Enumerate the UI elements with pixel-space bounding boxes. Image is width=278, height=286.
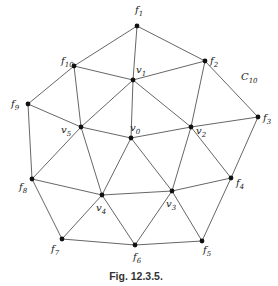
edge-v0-v3 [131,138,172,191]
planar-graph-diagram: f1f2f3f4f5f6f7f8f9f10v0v1v2v3v4v5 C10 Fi… [0,0,278,286]
vertex-f2 [203,59,208,64]
vertex-labels: f1f2f3f4f5f6f7f8f9f10v0v1v2v3v4v5 [10,4,272,265]
edge-v5-f8 [32,127,81,179]
edge-v4-v3 [102,191,172,195]
edge-v1-v5 [81,80,133,127]
edge-f10-v1 [74,66,133,80]
edge-f9-v5 [28,104,81,127]
edge-f10-f9 [28,66,74,104]
label-f3: f3 [262,112,272,126]
label-f5: f5 [202,244,212,258]
edge-f4-f5 [202,178,231,241]
edge-v0-v4 [102,138,131,195]
edge-f1-f10 [74,26,137,66]
edge-v3-f5 [172,191,202,241]
label-f10: f10 [60,55,74,69]
edge-v4-f6 [102,195,135,245]
edge-f9-f8 [28,104,32,179]
edge-f2-f3 [205,61,258,117]
vertex-f3 [256,115,261,120]
vertex-v4 [100,193,105,198]
cycle-label-c10: C10 [241,71,258,85]
label-f6: f6 [132,251,142,265]
vertex-v5 [79,125,84,130]
label-f1: f1 [134,4,143,18]
edge-f1-f2 [137,26,205,61]
label-f7: f7 [50,243,60,257]
vertex-v0 [129,136,134,141]
label-f4: f4 [235,177,244,191]
label-v2: v2 [196,125,207,139]
edge-f8-v4 [32,179,102,195]
edge-v5-v0 [81,127,131,138]
label-f8: f8 [18,181,28,195]
edge-v5-v4 [81,127,102,195]
vertex-f8 [30,177,35,182]
edge-v1-v2 [133,80,191,127]
vertex-f9 [26,102,31,107]
label-v5: v5 [61,124,72,138]
vertex-f5 [200,239,205,244]
edge-f8-f7 [32,179,62,239]
vertex-v1 [131,78,136,83]
vertex-f6 [133,243,138,248]
edge-f7-f6 [62,239,135,245]
label-v3: v3 [166,198,177,212]
edge-f10-v5 [74,66,81,127]
vertex-v2 [189,125,194,130]
figure-caption: Fig. 12.3.5. [109,270,163,282]
label-f9: f9 [10,98,20,112]
edge-f3-f4 [231,117,258,178]
vertex-v3 [170,189,175,194]
vertex-f1 [135,24,140,29]
label-v4: v4 [96,202,106,216]
edge-f2-v2 [191,61,205,127]
label-v1: v1 [136,64,146,78]
vertex-f7 [60,237,65,242]
edge-v3-f4 [172,178,231,191]
edge-f6-f5 [135,241,202,245]
label-v0: v0 [130,122,141,136]
vertex-f4 [229,176,234,181]
edge-v2-v3 [172,127,191,191]
